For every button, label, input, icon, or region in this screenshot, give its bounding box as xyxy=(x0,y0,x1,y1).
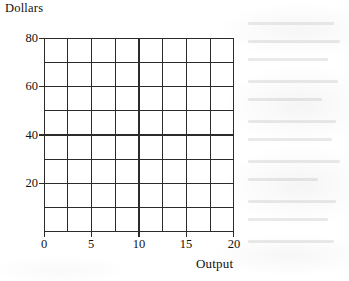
y-axis-title: Dollars xyxy=(5,1,43,16)
graph-figure: Dollars Output 80 60 40 20 0 5 10 15 20 xyxy=(0,0,349,281)
x-axis-tick-marks xyxy=(45,231,234,236)
y-tick-label-80: 80 xyxy=(8,32,38,45)
x-tick-label-10: 10 xyxy=(124,238,154,251)
y-tick-label-40: 40 xyxy=(8,129,38,142)
x-tick-label-20: 20 xyxy=(219,238,249,251)
x-tick-label-0: 0 xyxy=(29,238,59,251)
y-tick-label-60: 60 xyxy=(8,80,38,93)
plot-area xyxy=(44,38,234,232)
y-axis-tick-marks xyxy=(39,39,45,184)
grid-svg xyxy=(44,38,234,232)
x-tick-label-5: 5 xyxy=(76,238,106,251)
x-tick-label-15: 15 xyxy=(171,238,201,251)
x-axis-title: Output xyxy=(196,256,233,272)
y-tick-label-20: 20 xyxy=(8,177,38,190)
